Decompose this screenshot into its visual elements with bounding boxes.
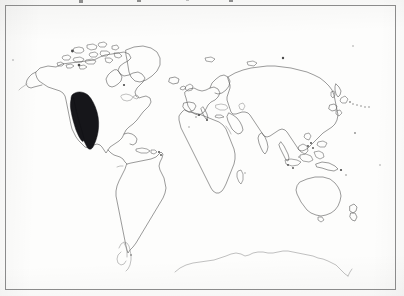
figure-root bbox=[0, 0, 404, 296]
figure-frame-border bbox=[5, 5, 396, 290]
